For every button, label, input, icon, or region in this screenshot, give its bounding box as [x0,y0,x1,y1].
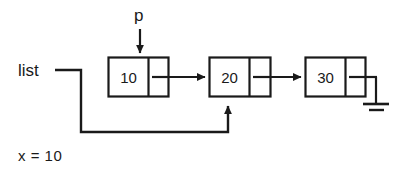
linked-list-diagram-canvas: list p x = 10 10 20 30 [0,0,414,173]
node-3-value: 30 [305,70,346,85]
node-1-value: 10 [108,70,149,85]
variable-assignment-label: x = 10 [18,148,62,163]
node-2-value: 20 [209,70,250,85]
node-pointer-label-p: p [134,7,143,24]
head-pointer-label: list [18,62,39,79]
